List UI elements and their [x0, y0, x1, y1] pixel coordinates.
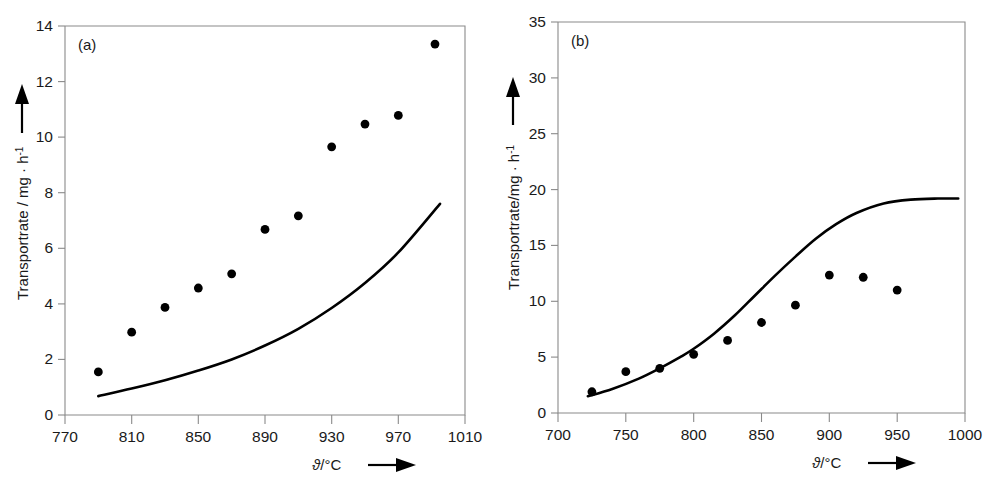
arrow-head-right-icon: [896, 456, 916, 470]
x-tick-label: 900: [816, 426, 842, 443]
panel-b-svg: 0 5 10 15 20 25 30 35 700: [492, 0, 985, 487]
data-point: [893, 286, 902, 295]
x-tick-label: 850: [749, 426, 775, 443]
arrow-head-up-icon: [506, 77, 520, 97]
arrow-head-up-icon: [15, 84, 29, 104]
panel-a-axes: [65, 26, 465, 415]
y-tick-label: 5: [537, 348, 546, 365]
x-tick-label: 700: [545, 426, 571, 443]
panel-a-x-axis-title-group: ϑ/°C: [312, 456, 416, 473]
x-axis-arrow-a: [368, 458, 416, 472]
x-axis-title-a: ϑ/°C: [312, 456, 341, 473]
y-axis-arrow-a: [15, 84, 29, 133]
data-point: [127, 328, 136, 337]
chart-panel-b: 0 5 10 15 20 25 30 35 700: [492, 0, 985, 487]
data-point: [94, 368, 103, 377]
panel-a-y-axis-title-group: Transportrate / mg · h-1: [14, 84, 31, 300]
y-tick-label: 10: [36, 128, 54, 145]
y-tick-label: 30: [529, 69, 547, 86]
x-tick-label: 750: [613, 426, 639, 443]
x-tick-label: 1000: [948, 426, 983, 443]
y-axis-title-a: Transportrate / mg · h-1: [14, 146, 31, 300]
x-tick-label: 800: [681, 426, 707, 443]
data-point: [194, 284, 203, 293]
panel-a-curve-group: [98, 204, 440, 396]
data-point: [621, 367, 630, 376]
plot-frame-b: [558, 22, 965, 413]
data-point: [431, 40, 440, 49]
panel-b-y-axis-title-group: Transportrate/mg · h-1: [505, 77, 522, 290]
x-tick-label: 930: [319, 428, 345, 445]
panel-b-x-axis-title-group: ϑ/°C: [812, 454, 916, 471]
arrow-head-right-icon: [396, 458, 416, 472]
x-tick-label: 810: [119, 428, 145, 445]
y-tick-label: 12: [36, 73, 53, 90]
y-tick-label: 8: [44, 184, 53, 201]
panel-b-y-ticks: 0 5 10 15 20 25 30 35: [529, 13, 558, 421]
x-tick-label: 850: [185, 428, 211, 445]
data-point: [655, 364, 664, 373]
calculated-curve-b: [588, 198, 958, 396]
data-point: [825, 271, 834, 280]
chart-panel-a: 0 2 4 6 8 10 12 14 770: [0, 0, 492, 487]
panel-a-data-points: [94, 40, 439, 377]
data-point: [689, 350, 698, 359]
panel-b-x-ticks: 700 750 800 850 900 950 1000: [545, 413, 983, 443]
data-point: [261, 225, 270, 234]
y-tick-label: 0: [44, 406, 53, 423]
y-tick-label: 4: [44, 295, 53, 312]
y-tick-label: 2: [44, 350, 53, 367]
x-tick-label: 770: [52, 428, 78, 445]
panel-b-curve-group: [588, 198, 958, 396]
x-axis-title-b: ϑ/°C: [812, 454, 841, 471]
y-tick-label: 14: [36, 17, 54, 34]
panel-b-data-points: [588, 271, 902, 397]
y-tick-label: 35: [529, 13, 546, 30]
data-point: [757, 318, 766, 327]
data-point: [859, 273, 868, 282]
data-point: [588, 387, 597, 396]
panel-a-x-ticks: 770 810 850 890 930 970 1010: [52, 415, 483, 445]
data-point: [394, 111, 403, 120]
panel-a-y-ticks: 0 2 4 6 8 10 12 14: [36, 17, 65, 423]
figure-container: 0 2 4 6 8 10 12 14 770: [0, 0, 985, 487]
y-tick-label: 0: [537, 404, 546, 421]
data-point: [161, 303, 170, 312]
calculated-curve-a-visible: [98, 204, 440, 396]
x-tick-label: 970: [385, 428, 411, 445]
plot-frame-a: [65, 26, 465, 415]
panel-b-axes: [558, 22, 965, 413]
x-tick-label: 1010: [448, 428, 483, 445]
y-tick-label: 15: [529, 236, 546, 253]
x-tick-label: 950: [884, 426, 910, 443]
y-tick-label: 10: [529, 292, 547, 309]
data-point: [791, 301, 800, 310]
data-point: [723, 336, 732, 345]
data-point: [294, 211, 303, 220]
panel-label-a: (a): [78, 36, 96, 53]
data-point: [327, 142, 336, 151]
data-point: [361, 120, 370, 129]
y-tick-label: 25: [529, 125, 546, 142]
panel-label-b: (b): [571, 32, 589, 49]
y-axis-title-b: Transportrate/mg · h-1: [505, 144, 522, 290]
y-tick-label: 6: [44, 239, 53, 256]
x-axis-arrow-b: [868, 456, 916, 470]
y-axis-arrow-b: [506, 77, 520, 125]
x-tick-label: 890: [252, 428, 278, 445]
data-point: [227, 269, 236, 278]
y-tick-label: 20: [529, 181, 547, 198]
panel-a-svg: 0 2 4 6 8 10 12 14 770: [0, 0, 492, 487]
